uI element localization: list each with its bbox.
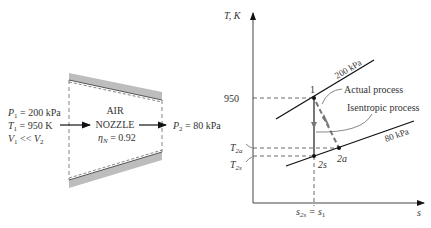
actual-process-label: Actual process	[344, 84, 403, 95]
isentropic-process-label: Isentropic process	[347, 102, 420, 113]
tick-950: 950	[224, 93, 239, 104]
state-1-label: 1	[310, 84, 315, 95]
state-2s-label: 2s	[318, 159, 327, 170]
state-2a-label: 2a	[337, 153, 347, 164]
state-2s-point	[312, 154, 316, 158]
inlet-temperature: T1 = 950 K	[8, 120, 53, 133]
nozzle-ts-diagram: AIR NOZZLE ηN = 0.92 P1 = 200 kPa T1 = 9…	[0, 0, 431, 228]
s-axis-label: s	[417, 207, 421, 218]
nozzle-top-wall	[69, 73, 162, 100]
nozzle-bottom-wall	[69, 152, 162, 188]
inlet-velocity: V1 << V2	[8, 133, 44, 146]
outlet-pressure: P2 = 80 kPa	[172, 120, 221, 133]
isobar-low-label: 80 kPa	[383, 126, 410, 144]
t2a-label: T2a	[230, 142, 243, 155]
t2s-label: T2s	[230, 159, 242, 172]
s-equality-label: s2s = s1	[296, 206, 326, 219]
nozzle-schematic: AIR NOZZLE ηN = 0.92 P1 = 200 kPa T1 = 9…	[7, 73, 221, 188]
ts-plot: T, K s 200 kPa 80 kPa 950 T2a T2s 1 2s 2…	[224, 10, 424, 219]
device-label: NOZZLE	[96, 119, 135, 130]
t-axis-label: T, K	[224, 10, 242, 21]
isobar-80kpa	[286, 121, 414, 166]
state-1-point	[312, 96, 316, 100]
state-2a-point	[337, 146, 341, 150]
fluid-label: AIR	[106, 105, 124, 116]
inlet-pressure: P1 = 200 kPa	[7, 107, 61, 120]
actual-process-line	[316, 102, 339, 148]
efficiency-label: ηN = 0.92	[98, 132, 136, 145]
